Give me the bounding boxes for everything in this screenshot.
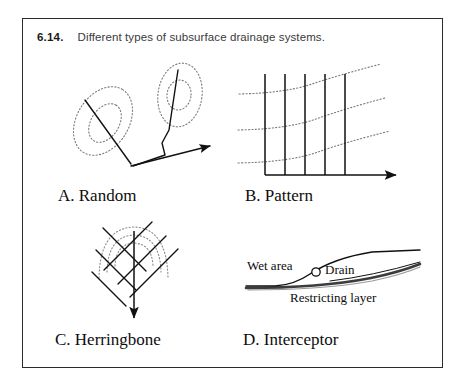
panel-label-herringbone: C. Herringbone <box>55 330 161 350</box>
annotation-drain: Drain <box>325 262 355 278</box>
figure-container: 6.14. Different types of subsurface drai… <box>0 0 468 389</box>
panel-label-interceptor: D. Interceptor <box>243 330 338 350</box>
panel-label-pattern: B. Pattern <box>245 186 313 206</box>
figure-number: 6.14. <box>37 31 64 43</box>
annotation-restricting-layer: Restricting layer <box>290 290 376 306</box>
figure-caption-text: Different types of subsurface drainage s… <box>78 31 325 43</box>
figure-caption: 6.14. Different types of subsurface drai… <box>37 31 427 43</box>
panel-label-random: A. Random <box>58 186 136 206</box>
annotation-wet-area: Wet area <box>247 258 293 274</box>
